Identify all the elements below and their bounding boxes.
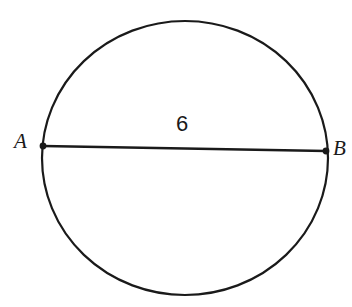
figure-canvas <box>0 0 352 307</box>
circle-outline <box>42 21 328 295</box>
diameter-measure-label: 6 <box>176 113 188 135</box>
geometry-figure: A B 6 <box>0 0 352 307</box>
point-a-dot <box>40 143 47 150</box>
point-b-dot <box>323 148 330 155</box>
point-b-label: B <box>333 138 346 159</box>
point-a-label: A <box>14 131 27 152</box>
diameter-segment-ab <box>43 146 326 151</box>
